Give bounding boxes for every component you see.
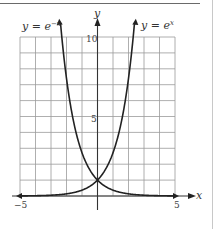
- x-tick-neg5: −5: [14, 200, 28, 210]
- curve-e-neg-x: [60, 23, 175, 196]
- left-curve-label: y = e−x: [21, 20, 61, 33]
- axes: [12, 18, 196, 210]
- curve-arrow-icon: [132, 19, 138, 25]
- y-tick-10: 10: [86, 34, 98, 44]
- x-tick-5: 5: [174, 200, 180, 210]
- y-axis-label: y: [93, 7, 101, 20]
- curve-arrow-icon: [16, 193, 22, 199]
- x-axis-arrow-icon: [188, 193, 196, 199]
- curve-e-x: [20, 23, 135, 196]
- right-curve-label: y = ex: [140, 19, 174, 32]
- y-tick-5: 5: [91, 114, 97, 124]
- curve-arrow-icon: [173, 193, 179, 199]
- chart-plot: y = e−x y = ex y x 10 5 −5 5: [0, 0, 216, 229]
- x-axis-label: x: [196, 189, 203, 202]
